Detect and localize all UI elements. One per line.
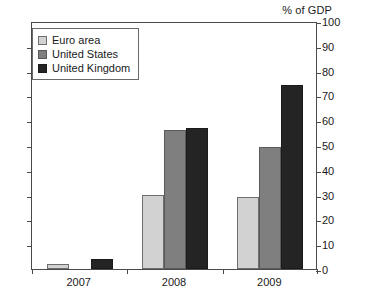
y-axis-tick-left xyxy=(27,122,32,123)
y-axis-tick-right xyxy=(316,197,321,198)
bar-chart: % of GDP 0102030405060708090100 20072008… xyxy=(0,0,370,301)
x-axis-tick xyxy=(223,269,224,274)
y-axis-tick-left xyxy=(27,221,32,222)
y-axis-label: 60 xyxy=(322,115,334,127)
x-axis-tick xyxy=(32,269,33,274)
y-axis-tick-left xyxy=(27,147,32,148)
y-axis-tick-right xyxy=(316,122,321,123)
legend-label: United Kingdom xyxy=(52,63,130,74)
legend-swatch-icon xyxy=(38,36,47,45)
bar-united-kingdom-2009 xyxy=(281,85,303,269)
legend-swatch-icon xyxy=(38,50,47,59)
legend-swatch-icon xyxy=(38,64,47,73)
legend-label: United States xyxy=(52,49,118,60)
legend-item-united-kingdom: United Kingdom xyxy=(38,61,130,75)
y-axis-tick-right xyxy=(316,23,321,24)
x-axis-label-2007: 2007 xyxy=(66,276,90,288)
legend-item-united-states: United States xyxy=(38,47,130,61)
y-axis-label: 20 xyxy=(322,214,334,226)
axis-title: % of GDP xyxy=(282,4,332,16)
y-axis-label: 50 xyxy=(322,140,334,152)
y-axis-label: 100 xyxy=(322,16,340,28)
legend: Euro areaUnited StatesUnited Kingdom xyxy=(32,28,139,80)
y-axis-label: 30 xyxy=(322,190,334,202)
bar-united-kingdom-2008 xyxy=(186,128,208,269)
x-axis-tick xyxy=(317,269,318,274)
y-axis-tick-right xyxy=(316,246,321,247)
legend-label: Euro area xyxy=(52,35,100,46)
y-axis-tick-right xyxy=(316,97,321,98)
bar-euro-area-2008 xyxy=(142,195,164,269)
y-axis-tick-right xyxy=(316,48,321,49)
y-axis-label: 70 xyxy=(322,90,334,102)
y-axis-label: 40 xyxy=(322,165,334,177)
y-axis-label: 80 xyxy=(322,66,334,78)
y-axis-tick-right xyxy=(316,172,321,173)
y-axis-tick-left xyxy=(27,172,32,173)
x-axis-label-2009: 2009 xyxy=(257,276,281,288)
y-axis-tick-right xyxy=(316,73,321,74)
bar-united-states-2008 xyxy=(164,130,186,269)
y-axis-tick-left xyxy=(27,197,32,198)
y-axis-tick-right xyxy=(316,147,321,148)
bar-united-states-2009 xyxy=(259,147,281,269)
y-axis-tick-right xyxy=(316,221,321,222)
legend-item-euro-area: Euro area xyxy=(38,33,130,47)
bar-united-kingdom-2007 xyxy=(91,259,113,269)
y-axis-label: 10 xyxy=(322,239,334,251)
y-axis-tick-left xyxy=(27,246,32,247)
y-axis-label: 90 xyxy=(322,41,334,53)
bar-euro-area-2007 xyxy=(47,264,69,269)
bar-euro-area-2009 xyxy=(237,197,259,269)
x-axis-label-2008: 2008 xyxy=(162,276,186,288)
y-axis-label: 0 xyxy=(322,264,328,276)
x-axis-tick xyxy=(127,269,128,274)
y-axis-tick-left xyxy=(27,97,32,98)
